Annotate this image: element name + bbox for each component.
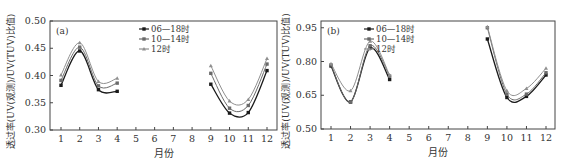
x-tick-label: 12	[540, 132, 552, 143]
y-tick-label: 0.50	[296, 123, 317, 134]
legend-label: 06—18时	[151, 24, 190, 34]
x-tick-label: 11	[242, 133, 254, 144]
series-0	[59, 49, 268, 117]
y-tick-label: 0.50	[25, 15, 46, 26]
data-point-marker	[228, 111, 231, 114]
series-1	[59, 45, 268, 111]
data-point-marker	[265, 69, 268, 72]
data-point-marker	[209, 64, 213, 68]
data-point-marker	[544, 71, 547, 74]
data-point-marker	[209, 72, 212, 75]
x-tick-label: 5	[133, 133, 139, 144]
y-tick-label: 0.80	[296, 56, 317, 67]
x-tick-label: 4	[114, 133, 120, 144]
x-tick-label: 1	[328, 132, 334, 143]
data-point-marker	[388, 78, 391, 81]
data-point-marker	[97, 84, 100, 87]
series-line	[211, 64, 267, 112]
data-point-marker	[209, 83, 212, 86]
x-axis-title: 月份	[154, 148, 174, 159]
x-tick-label: 5	[406, 132, 412, 143]
x-tick-label: 8	[189, 133, 195, 144]
data-point-marker	[59, 79, 62, 82]
legend-item: 06—18时	[139, 24, 190, 34]
x-tick-label: 7	[445, 132, 451, 143]
data-point-marker	[368, 44, 371, 47]
series-line	[211, 71, 267, 118]
data-point-marker	[115, 81, 118, 84]
data-point-marker	[265, 57, 269, 61]
y-tick-label: 0.95	[296, 22, 317, 33]
panel-label: (a)	[56, 26, 68, 36]
data-point-marker	[78, 45, 81, 48]
x-tick-label: 2	[77, 133, 83, 144]
y-tick-label: 0.45	[25, 42, 46, 53]
data-point-marker	[525, 92, 528, 95]
legend-item: 06—18时	[364, 24, 415, 34]
legend-item: 10—14时	[139, 34, 190, 44]
data-point-marker	[97, 88, 100, 91]
x-tick-label: 8	[465, 132, 471, 143]
data-point-marker	[115, 76, 119, 80]
series-1	[329, 26, 547, 104]
y-tick-label: 0.40	[25, 70, 46, 81]
x-tick-label: 3	[95, 133, 101, 144]
y-tick-label: 0.65	[296, 89, 317, 100]
x-tick-label: 9	[208, 133, 214, 144]
data-point-marker	[228, 107, 231, 110]
y-tick-label: 0.35	[25, 97, 46, 108]
legend-label: 10—14时	[376, 34, 415, 44]
data-point-marker	[59, 73, 63, 77]
y-axis-title: 透过率(UV(观测)/UV(TUV)比值)	[280, 13, 291, 148]
x-tick-label: 11	[520, 132, 532, 143]
x-tick-label: 3	[367, 132, 373, 143]
x-tick-label: 7	[170, 133, 176, 144]
x-axis-title: 月份	[428, 147, 448, 158]
x-tick-label: 2	[348, 132, 354, 143]
data-point-marker	[265, 62, 268, 65]
panel-label: (b)	[327, 26, 340, 36]
x-tick-label: 6	[426, 132, 432, 143]
plot-frame	[321, 21, 555, 129]
data-point-marker	[544, 66, 548, 70]
data-point-marker	[486, 37, 489, 40]
x-tick-label: 10	[501, 132, 513, 143]
x-tick-label: 12	[261, 133, 273, 144]
legend-label: 12时	[151, 44, 171, 54]
legend-label: 10—14时	[151, 34, 190, 44]
x-tick-label: 4	[387, 132, 393, 143]
x-tick-label: 10	[223, 133, 235, 144]
data-point-marker	[247, 111, 250, 114]
data-point-marker	[247, 104, 250, 107]
chart-panel-a: 0.300.350.400.450.50123456789101112月份透过率…	[5, 14, 277, 159]
data-point-marker	[78, 49, 81, 52]
chart-panel-b: 0.500.650.800.95123456789101112月份透过率(UV(…	[280, 13, 555, 158]
data-point-marker	[115, 90, 118, 93]
x-tick-label: 9	[484, 132, 490, 143]
x-tick-label: 6	[152, 133, 158, 144]
x-tick-label: 1	[58, 133, 64, 144]
legend-label: 06—18时	[376, 24, 415, 34]
data-point-marker	[349, 100, 352, 103]
series-line	[487, 39, 546, 102]
series-line	[487, 28, 546, 100]
series-0	[329, 37, 547, 103]
figure: 0.300.350.400.450.50123456789101112月份透过率…	[0, 0, 568, 165]
series-2	[329, 25, 548, 96]
data-point-marker	[59, 84, 62, 87]
y-axis-title: 透过率(UV(观测)/UV(TUV)比值)	[5, 14, 16, 149]
legend-label: 12时	[376, 44, 396, 54]
legend-item: 12时	[139, 44, 171, 54]
y-tick-label: 0.30	[25, 124, 46, 135]
